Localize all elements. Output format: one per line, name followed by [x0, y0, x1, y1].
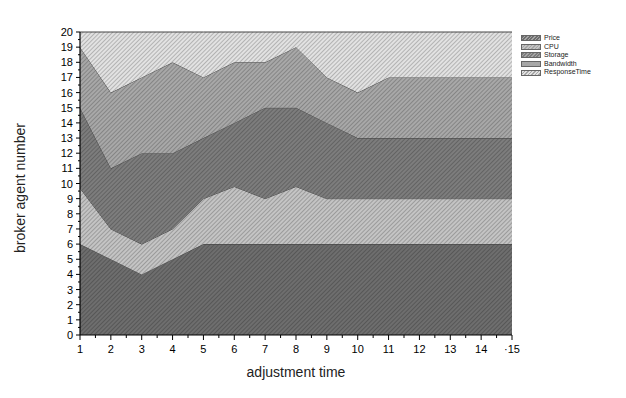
- y-tick-label: 0: [67, 329, 73, 341]
- x-tick-label: 5: [200, 343, 206, 355]
- x-tick-label: 2: [108, 343, 114, 355]
- legend-item-storage: Storage: [521, 51, 591, 60]
- y-tick-label: 4: [67, 268, 73, 280]
- y-tick-label: 9: [67, 193, 73, 205]
- x-axis-label: adjustment time: [196, 364, 396, 380]
- x-tick-label: 4: [170, 343, 176, 355]
- x-tick-label: 6: [231, 343, 237, 355]
- y-tick-label: 12: [61, 147, 73, 159]
- y-tick-label: 10: [61, 178, 73, 190]
- y-tick-label: 8: [67, 208, 73, 220]
- y-tick-label: 19: [61, 41, 73, 53]
- x-tick-label: ·15: [504, 343, 520, 355]
- x-tick-label: 9: [324, 343, 330, 355]
- legend-label: CPU: [544, 43, 559, 52]
- y-tick-label: 6: [67, 238, 73, 250]
- x-tick-label: 8: [293, 343, 299, 355]
- y-tick-label: 18: [61, 56, 73, 68]
- legend-swatch-icon: [521, 52, 541, 58]
- x-tick-label: 10: [352, 343, 364, 355]
- x-tick-label: 13: [444, 343, 456, 355]
- y-tick-label: 16: [61, 87, 73, 99]
- y-tick-label: 2: [67, 299, 73, 311]
- legend-item-responsetime: ResponseTime: [521, 68, 591, 77]
- plot-areas: [80, 32, 512, 335]
- y-tick-label: 15: [61, 102, 73, 114]
- legend: Price CPU Storage Bandwidth ResponseTime: [521, 34, 591, 77]
- y-tick-label: 13: [61, 132, 73, 144]
- legend-swatch-icon: [521, 70, 541, 76]
- y-tick-label: 5: [67, 253, 73, 265]
- y-tick-label: 3: [67, 284, 73, 296]
- x-tick-label: 7: [262, 343, 268, 355]
- legend-label: ResponseTime: [544, 68, 591, 77]
- y-axis-label: broker agent number: [12, 108, 28, 268]
- y-tick-label: 17: [61, 71, 73, 83]
- legend-swatch-icon: [521, 44, 541, 50]
- x-tick-label: 11: [383, 343, 394, 355]
- x-tick-label: 1: [77, 343, 83, 355]
- legend-label: Storage: [544, 51, 569, 60]
- legend-item-bandwidth: Bandwidth: [521, 60, 591, 69]
- x-tick-label: 3: [139, 343, 145, 355]
- legend-swatch-icon: [521, 61, 541, 67]
- legend-label: Price: [544, 34, 560, 43]
- legend-label: Bandwidth: [544, 60, 577, 69]
- y-tick-label: 1: [67, 314, 73, 326]
- y-tick-label: 20: [61, 26, 73, 38]
- legend-item-cpu: CPU: [521, 43, 591, 52]
- y-tick-label: 14: [61, 117, 73, 129]
- y-tick-label: 11: [62, 162, 73, 174]
- legend-item-price: Price: [521, 34, 591, 43]
- y-tick-label: 7: [67, 223, 73, 235]
- x-tick-label: 12: [413, 343, 425, 355]
- legend-swatch-icon: [521, 35, 541, 41]
- x-tick-label: 14: [475, 343, 487, 355]
